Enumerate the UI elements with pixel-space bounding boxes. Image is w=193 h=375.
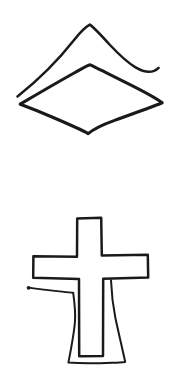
line-drawing xyxy=(0,0,193,375)
paper-background xyxy=(0,0,193,375)
drawing-canvas: Two black ink line-drawn figures on a pl… xyxy=(0,0,193,375)
hook-tip-dot xyxy=(27,286,31,290)
